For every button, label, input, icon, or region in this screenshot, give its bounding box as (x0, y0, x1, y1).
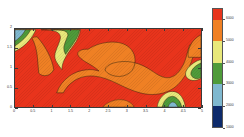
colorbar-tick (223, 106, 225, 107)
y-axis-tick (198, 88, 201, 89)
x-axis-tick-label: 3.5 (143, 110, 148, 114)
colorbar-tick (223, 63, 225, 64)
x-axis-tick-label: 1.5 (68, 110, 73, 114)
colorbar-band (213, 106, 222, 127)
y-axis-tick (198, 48, 201, 49)
x-axis-tick (164, 28, 165, 31)
x-axis-tick (70, 28, 71, 31)
x-axis-tick (108, 28, 109, 31)
colorbar-band (213, 41, 222, 62)
x-axis-tick-label: 2 (88, 110, 90, 114)
x-axis-tick (146, 28, 147, 31)
x-axis-tick (127, 105, 128, 108)
x-axis-tick (183, 105, 184, 108)
y-axis-tick-label: 2 (10, 26, 12, 30)
y-axis-tick (198, 28, 201, 29)
x-axis-tick (33, 28, 34, 31)
x-axis-tick (89, 28, 90, 31)
y-axis-tick (198, 68, 201, 69)
colorbar-tick (223, 84, 225, 85)
colorbar-tick (223, 128, 225, 129)
x-axis-tick (52, 105, 53, 108)
colorbar-band (213, 9, 222, 20)
contour-figure: 00.511.522.533.544.5500.511.52 600050004… (0, 0, 244, 137)
y-axis-tick (15, 88, 18, 89)
x-axis-tick (127, 28, 128, 31)
y-axis-tick (15, 108, 18, 109)
y-axis-tick (15, 28, 18, 29)
colorbar-tick-label: 2000 (226, 104, 234, 107)
x-axis-tick (52, 28, 53, 31)
colorbar-tick-label: 1000 (226, 126, 234, 129)
colorbar-tick-label: 3000 (226, 83, 234, 86)
colorbar-band (213, 84, 222, 105)
x-axis-tick (70, 105, 71, 108)
x-axis-tick-label: 3 (126, 110, 128, 114)
y-axis-tick-label: 0 (10, 106, 12, 110)
x-axis-tick (202, 105, 203, 108)
colorbar-tick-label: 5000 (226, 39, 234, 42)
contour-plot-area (14, 28, 202, 108)
colorbar-tick (223, 41, 225, 42)
x-axis-tick (89, 105, 90, 108)
x-axis-tick (164, 105, 165, 108)
x-axis-tick (146, 105, 147, 108)
y-axis-tick (198, 108, 201, 109)
y-axis-tick (15, 48, 18, 49)
x-axis-tick-label: 0.5 (30, 110, 35, 114)
colorbar-tick-label: 6000 (226, 17, 234, 20)
colorbar-band (213, 63, 222, 84)
y-axis-tick-label: 0.5 (7, 86, 12, 90)
x-axis-tick (33, 105, 34, 108)
x-axis-tick (202, 28, 203, 31)
x-axis-tick-label: 4 (163, 110, 165, 114)
colorbar[interactable] (212, 8, 223, 128)
x-axis-tick-label: 1 (51, 110, 53, 114)
colorbar-band (213, 20, 222, 41)
y-axis-tick (15, 68, 18, 69)
x-axis-tick-label: 5 (201, 110, 203, 114)
colorbar-tick (223, 19, 225, 20)
contour-surface (15, 29, 201, 107)
x-axis-tick-label: 0 (13, 110, 15, 114)
y-axis-tick-label: 1 (10, 66, 12, 70)
x-axis-tick-label: 4.5 (181, 110, 186, 114)
y-axis-tick-label: 1.5 (7, 46, 12, 50)
x-axis-tick (183, 28, 184, 31)
colorbar-tick-label: 4000 (226, 61, 234, 64)
x-axis-tick-label: 2.5 (106, 110, 111, 114)
x-axis-tick (108, 105, 109, 108)
